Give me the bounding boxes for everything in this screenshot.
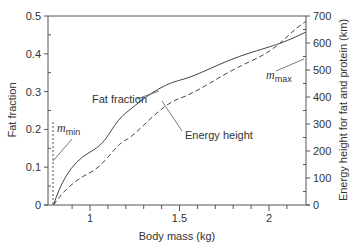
x-axis-title: Body mass (kg) [139, 230, 215, 242]
y2-tick-500: 500 [313, 64, 331, 76]
x-ticks [72, 205, 287, 211]
y-tick-0.3: 0.3 [26, 86, 41, 98]
chart-canvas: 0 0.1 0.2 0.3 0.4 0.5 0 100 200 300 400 … [0, 0, 359, 249]
x-tick-1.5: 1.5 [172, 212, 187, 224]
mmax-label: mmax [266, 68, 292, 84]
y2-tick-600: 600 [313, 37, 331, 49]
y-axis-title-left: Fat fraction [6, 82, 18, 137]
y-tick-0.1: 0.1 [26, 161, 41, 173]
y2-tick-400: 400 [313, 91, 331, 103]
y-tick-0: 0 [35, 199, 41, 211]
mmax-leader [276, 59, 304, 71]
y-tick-0.2: 0.2 [26, 123, 41, 135]
y2-tick-0: 0 [313, 199, 319, 211]
y2-tick-700: 700 [313, 10, 331, 22]
y2-tick-300: 300 [313, 118, 331, 130]
x-tick-labels: 1 1.5 2 [87, 212, 272, 224]
left-y-tick-labels: 0 0.1 0.2 0.3 0.4 0.5 [26, 10, 41, 211]
y-axis-title-right: Energy height for fat and protein (km) [337, 19, 349, 201]
energy-height-curve [54, 21, 306, 205]
x-tick-1: 1 [87, 212, 93, 224]
mmin-label: mmin [57, 121, 80, 137]
mmin-leader [53, 139, 72, 161]
energy-height-label: Energy height [185, 129, 253, 141]
y2-tick-100: 100 [313, 172, 331, 184]
y2-tick-200: 200 [313, 145, 331, 157]
y-tick-0.4: 0.4 [26, 48, 41, 60]
energy-height-leader [162, 101, 182, 131]
fat-fraction-curve [54, 32, 306, 205]
fat-fraction-label: Fat fraction [92, 93, 147, 105]
right-y-tick-labels: 0 100 200 300 400 500 600 700 [313, 10, 331, 211]
x-tick-2: 2 [266, 212, 272, 224]
y-tick-0.5: 0.5 [26, 10, 41, 22]
